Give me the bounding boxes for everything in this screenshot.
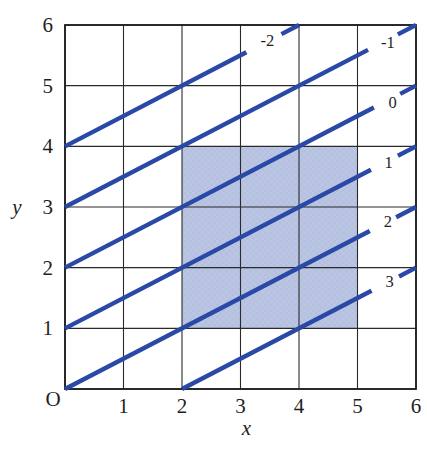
- y-tick-label: 6: [43, 13, 54, 37]
- y-tick-label: 2: [43, 256, 54, 280]
- x-tick-label: 1: [118, 394, 129, 418]
- shaded-region-group: [182, 146, 358, 328]
- contour-label: -1: [381, 33, 395, 52]
- y-axis-title: y: [10, 195, 22, 219]
- x-tick-label: 3: [235, 394, 246, 418]
- contour-line-end-dash: [396, 207, 416, 217]
- contour-line-end-dash: [400, 86, 416, 94]
- y-tick-label: 3: [43, 195, 54, 219]
- shaded-region-texture: [182, 146, 358, 328]
- x-tick-label: 2: [177, 394, 188, 418]
- y-tick-label: 5: [43, 74, 54, 98]
- x-axis-title: x: [241, 416, 252, 440]
- origin-label: O: [45, 387, 60, 411]
- x-tick-label: 4: [294, 394, 305, 418]
- contour-label: 2: [384, 212, 392, 231]
- contour-label: 0: [388, 93, 396, 112]
- contour-label: 3: [386, 272, 394, 291]
- contour-line: [65, 52, 246, 146]
- x-tick-label: 6: [411, 394, 422, 418]
- contour-line-end-dash: [398, 146, 416, 155]
- contour-label: 1: [384, 153, 392, 172]
- contour-line-end-dash: [281, 25, 299, 34]
- contour-label: -2: [261, 31, 275, 50]
- x-tick-label: 5: [352, 394, 363, 418]
- contour-line-end-dash: [398, 25, 416, 34]
- contour-line-end-dash: [399, 268, 416, 277]
- y-tick-label: 4: [43, 134, 54, 158]
- level-curves-chart: -2-10123 123456123456O yx: [0, 0, 427, 454]
- grid-group: [65, 25, 416, 389]
- level-curves-figure: -2-10123 123456123456O yx: [0, 0, 427, 454]
- y-tick-label: 1: [43, 316, 54, 340]
